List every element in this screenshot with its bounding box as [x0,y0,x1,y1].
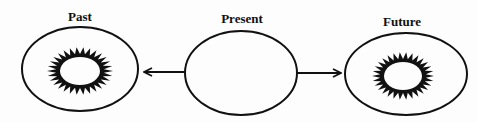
past-starburst-icon [47,47,113,95]
present-label: Present [221,12,263,25]
future-node [345,33,467,115]
present-node [185,31,297,115]
future-starburst-icon [372,52,434,100]
future-label: Future [383,15,421,28]
time-diagram: Past Present Future [0,0,477,122]
past-label: Past [68,10,92,23]
past-node [22,27,138,111]
